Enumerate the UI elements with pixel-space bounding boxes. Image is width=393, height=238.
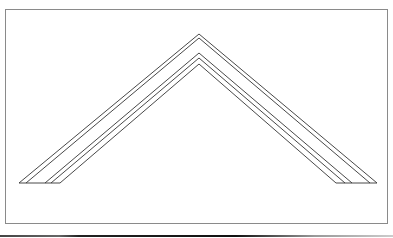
chevron-diagram (0, 0, 393, 238)
bottom-divider (0, 235, 393, 237)
chevron-lines (19, 34, 377, 183)
chevron-line-3 (45, 53, 352, 183)
chevron-line-2 (26, 38, 370, 183)
chevron-line-5 (60, 64, 336, 183)
chevron-line-1 (19, 34, 377, 183)
